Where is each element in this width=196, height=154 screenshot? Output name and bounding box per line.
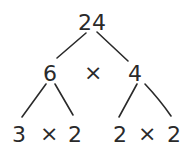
- times-operator-right: ×: [138, 121, 156, 146]
- branch-6-to-3: [22, 84, 46, 117]
- branch-24-to-6: [57, 33, 86, 58]
- node-6: 6: [43, 61, 57, 86]
- times-operator-left: ×: [40, 121, 58, 146]
- leaf-2-left: 2: [68, 122, 82, 147]
- leaf-2-right-b: 2: [167, 122, 181, 147]
- times-operator-level1: ×: [84, 60, 102, 85]
- leaf-2-right-a: 2: [113, 122, 127, 147]
- branch-24-to-4: [97, 32, 128, 61]
- leaf-3: 3: [12, 122, 26, 147]
- factor-tree-diagram: 24 6 × 4 3 × 2 2 × 2: [0, 0, 196, 154]
- branch-4-to-2a: [119, 84, 137, 117]
- branch-6-to-2: [55, 84, 73, 115]
- node-4: 4: [128, 61, 142, 86]
- root-node-24: 24: [78, 10, 106, 35]
- branch-4-to-2b: [145, 84, 171, 116]
